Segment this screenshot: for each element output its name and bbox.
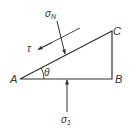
vertex-a-label: A [9, 73, 17, 85]
theta-label: θ [44, 67, 50, 78]
vertex-c-label: C [113, 25, 121, 37]
sigma-n-label: σN [45, 8, 57, 20]
sigma-n-arrow [57, 21, 65, 54]
sigma-1-label: σ1 [61, 114, 71, 126]
vertex-b-label: B [115, 73, 122, 85]
stress-triangle-diagram: A B C θ σN τ σ1 [0, 0, 130, 133]
triangle-abc [20, 31, 112, 79]
tau-arrow [38, 43, 52, 50]
tau-label: τ [27, 43, 32, 54]
